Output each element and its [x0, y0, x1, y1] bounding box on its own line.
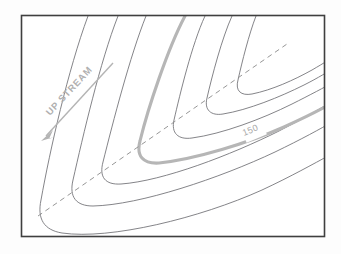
contour-plot-canvas: UP STREAM 150	[0, 0, 341, 254]
contour-figure: UP STREAM 150	[0, 0, 341, 254]
